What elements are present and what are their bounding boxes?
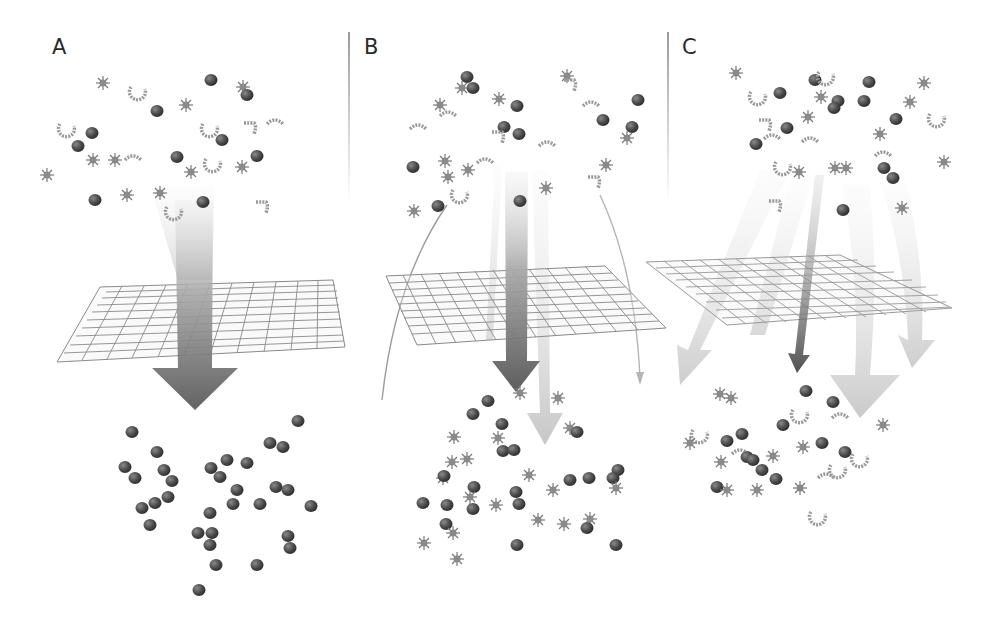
diagram-canvas xyxy=(0,0,999,621)
panel-b xyxy=(382,69,666,566)
panel-c xyxy=(646,66,952,525)
three-panel-diagram: A B C xyxy=(0,0,999,621)
panel-a xyxy=(40,74,345,596)
particles-below xyxy=(119,415,318,596)
particles-below xyxy=(417,386,625,566)
